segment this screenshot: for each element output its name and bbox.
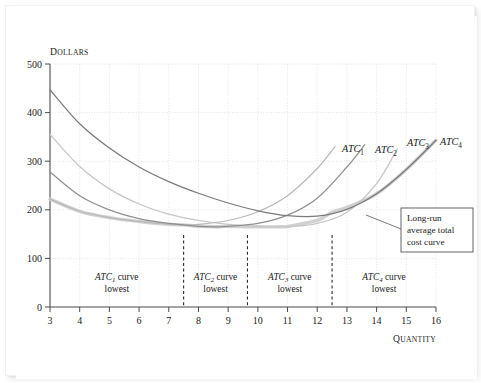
x-axis-tick-label: 10 <box>253 315 263 326</box>
callout-line-1: Long-run <box>407 213 442 223</box>
cost-curves-chart: 0100200300400500 345678910111213141516 D… <box>16 16 477 379</box>
y-axis-tick-label: 0 <box>37 302 42 313</box>
callout-leader-line <box>366 215 401 229</box>
x-axis-ticks <box>50 307 436 312</box>
grid-vertical <box>80 64 436 307</box>
x-axis-tick-label: 13 <box>342 315 352 326</box>
grid-horizontal <box>50 64 436 258</box>
region-atc3-line-1: ATC3 curve <box>267 272 311 283</box>
curve-label-atc2: ATC2 <box>374 144 397 158</box>
y-axis-ticks <box>45 64 50 307</box>
callout-line-2: average total <box>407 225 455 235</box>
region-atc4-line-1: ATC4 curve <box>361 272 405 283</box>
y-axis-tick-label: 300 <box>27 156 42 167</box>
y-axis-tick-labels: 0100200300400500 <box>27 59 42 313</box>
x-axis-title: QUANTITY <box>393 333 436 344</box>
y-axis-tick-label: 400 <box>27 107 42 118</box>
curve-label-atc4: ATC4 <box>439 136 462 150</box>
long-run-callout: Long-run average total cost curve <box>366 208 473 252</box>
region-labels: ATC1 curvelowestATC2 curvelowestATC3 cur… <box>94 272 406 294</box>
x-axis-tick-label: 11 <box>283 315 293 326</box>
x-axis-tick-label: 5 <box>107 315 112 326</box>
region-atc4-line-2: lowest <box>372 284 397 294</box>
x-axis-tick-label: 14 <box>372 315 382 326</box>
x-axis-tick-label: 9 <box>226 315 231 326</box>
figure-panel: 0100200300400500 345678910111213141516 D… <box>16 16 477 379</box>
region-atc2-line-2: lowest <box>203 284 228 294</box>
region-atc1-line-2: lowest <box>105 284 130 294</box>
region-atc4: ATC4 curvelowest <box>361 272 405 294</box>
y-axis-tick-label: 500 <box>27 59 42 70</box>
curve-label-atc3: ATC3 <box>406 137 429 151</box>
curve-label-atc1: ATC1 <box>341 143 364 157</box>
callout-line-3: cost curve <box>407 237 445 247</box>
x-axis-tick-label: 15 <box>401 315 411 326</box>
x-axis-tick-label: 12 <box>312 315 322 326</box>
y-axis-tick-label: 200 <box>27 204 42 215</box>
figure-root: 0100200300400500 345678910111213141516 D… <box>0 0 481 383</box>
region-atc3-line-2: lowest <box>278 284 303 294</box>
x-axis-tick-label: 8 <box>196 315 201 326</box>
region-atc1: ATC1 curvelowest <box>94 272 138 294</box>
curve-end-labels: ATC1ATC2ATC3ATC4 <box>341 136 462 158</box>
x-axis-tick-label: 4 <box>77 315 82 326</box>
x-axis-tick-label: 6 <box>137 315 142 326</box>
x-axis-tick-labels: 345678910111213141516 <box>48 315 442 326</box>
x-axis-tick-label: 3 <box>48 315 53 326</box>
x-axis-tick-label: 7 <box>166 315 171 326</box>
region-atc2: ATC2 curvelowest <box>193 272 237 294</box>
curve-lines <box>50 90 436 227</box>
figure-frame: 0100200300400500 345678910111213141516 D… <box>6 6 474 375</box>
axis-lines <box>50 64 436 307</box>
region-atc1-line-1: ATC1 curve <box>94 272 138 283</box>
region-atc3: ATC3 curvelowest <box>267 272 311 294</box>
x-axis-tick-label: 16 <box>431 315 441 326</box>
y-axis-title: DOLLARS <box>50 46 89 57</box>
y-axis-tick-label: 100 <box>27 253 42 264</box>
region-atc2-line-1: ATC2 curve <box>193 272 237 283</box>
